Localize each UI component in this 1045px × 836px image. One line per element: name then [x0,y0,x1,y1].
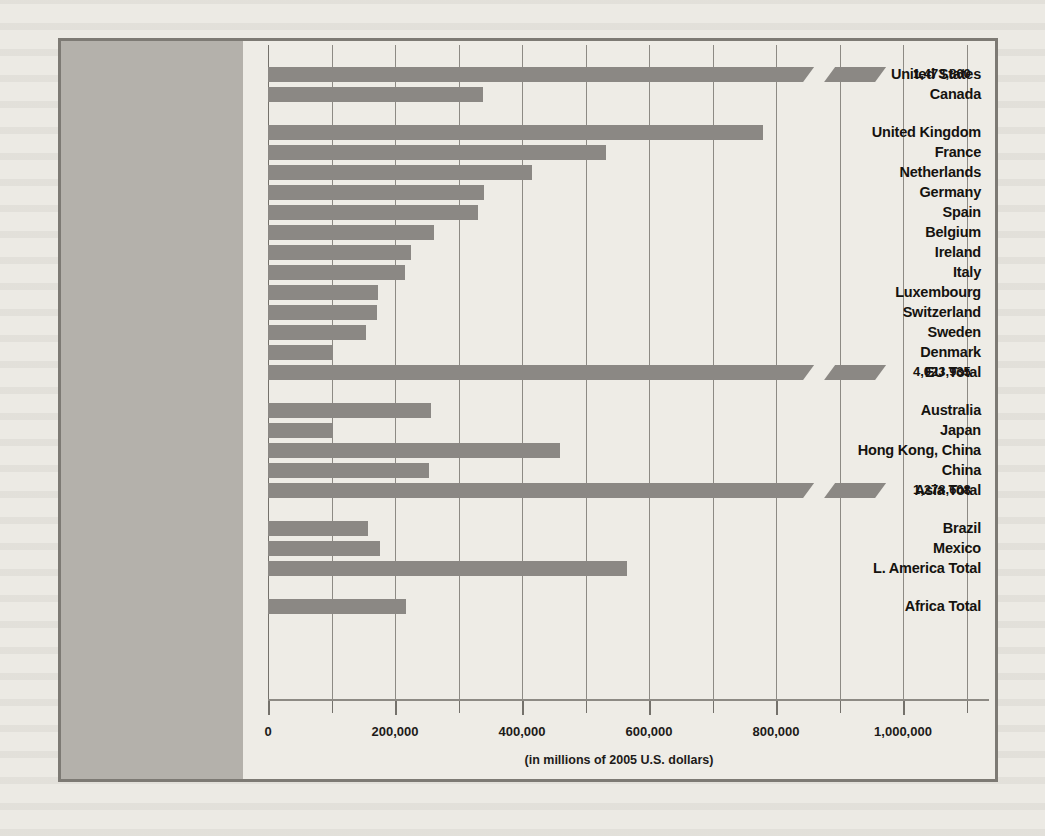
bar-value-label: 4,023,935 [913,362,971,382]
bar [268,541,380,556]
tick-200000 [395,701,397,715]
tick-600000 [649,701,651,715]
bar-row-label: Denmark [813,342,981,362]
bar [268,365,814,380]
bar-row-label: United Kingdom [813,122,981,142]
tick-700000 [713,701,714,713]
bar-row-label: Brazil [813,518,981,538]
bar-row-label: Germany [813,182,981,202]
bar-row: Denmark [61,342,995,362]
bar [268,185,484,200]
bar-row-label: Sweden [813,322,981,342]
bar-row: Africa Total [61,596,995,616]
x-tick-label: 0 [264,724,271,739]
bar-row: Germany [61,182,995,202]
bar-row-label: Netherlands [813,162,981,182]
bar [268,483,814,498]
bar-value-label: 1,473,860 [913,64,971,84]
bar [268,165,532,180]
tick-300000 [459,701,460,713]
bar-value-label: 1,278,608 [913,480,971,500]
bar [268,345,333,360]
bar-row-label: Australia [813,400,981,420]
bar [268,245,411,260]
bar-row-label: Belgium [813,222,981,242]
tick-500000 [586,701,587,713]
x-tick-label: 600,000 [626,724,673,739]
bar-row: Hong Kong, China [61,440,995,460]
bar-row: Sweden [61,322,995,342]
bar-row-label: Mexico [813,538,981,558]
tick-400000 [522,701,524,715]
bar [268,145,606,160]
bar [268,599,406,614]
bar-row: Australia [61,400,995,420]
bar [268,561,627,576]
bar-row: United States1,473,860 [61,64,995,84]
bar [268,305,377,320]
bar-row: Belgium [61,222,995,242]
bar [268,403,431,418]
bar [268,205,478,220]
bar-row: Switzerland [61,302,995,322]
bar-row: United Kingdom [61,122,995,142]
tick-100000 [332,701,333,713]
bar [268,67,814,82]
chart-figure: 0200,000400,000600,000800,0001,000,000 (… [58,38,998,782]
bar-row-label: Africa Total [813,596,981,616]
bar [268,423,333,438]
bar-row: Asia Total1,278,608 [61,480,995,500]
tick-1000000 [903,701,905,715]
bar-row: Luxembourg [61,282,995,302]
bar-row-label: Ireland [813,242,981,262]
bar-row: France [61,142,995,162]
bar [268,463,429,478]
x-tick-label: 1,000,000 [874,724,932,739]
bar-row-label: France [813,142,981,162]
bar-row-label: Luxembourg [813,282,981,302]
bar-row-label: Spain [813,202,981,222]
bar-row: Brazil [61,518,995,538]
bar-row: Ireland [61,242,995,262]
bar-row: EU Total4,023,935 [61,362,995,382]
tick-800000 [776,701,778,715]
bar [268,521,368,536]
bar-row: Netherlands [61,162,995,182]
bar [268,265,405,280]
bar [268,325,366,340]
bar-row-label: China [813,460,981,480]
bar-row-label: L. America Total [813,558,981,578]
bar-row: L. America Total [61,558,995,578]
bar-row: China [61,460,995,480]
bar-row: Spain [61,202,995,222]
bar [268,443,560,458]
tick-0 [268,701,270,715]
x-axis-caption: (in millions of 2005 U.S. dollars) [243,753,995,767]
bar-row-label: Canada [813,84,981,104]
tick-1100000 [967,701,968,713]
bar-row-label: Switzerland [813,302,981,322]
x-tick-label: 200,000 [372,724,419,739]
bar-row: Mexico [61,538,995,558]
bar [268,285,378,300]
bar [268,87,483,102]
bar-row-label: Hong Kong, China [813,440,981,460]
tick-900000 [840,701,841,713]
bar-row-label: Japan [813,420,981,440]
x-axis-line [268,699,989,701]
bar-row: Italy [61,262,995,282]
x-tick-label: 400,000 [499,724,546,739]
bar-row: Japan [61,420,995,440]
bar-row: Canada [61,84,995,104]
bar [268,125,763,140]
bar [268,225,434,240]
x-tick-label: 800,000 [753,724,800,739]
bar-row-label: Italy [813,262,981,282]
